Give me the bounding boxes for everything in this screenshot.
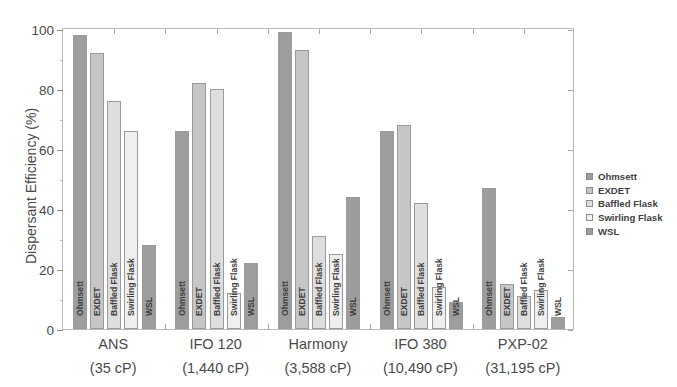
y-tick-mark (57, 330, 63, 331)
legend-label: Baffled Flask (598, 198, 658, 209)
chart-legend: OhmsettEXDETBaffled FlaskSwirling FlaskW… (586, 170, 674, 238)
bar[interactable]: WSL (142, 245, 156, 329)
bar-caption: Swirling Flask (537, 259, 546, 317)
x-group-viscosity: (1,440 cP) (164, 360, 266, 376)
y-tick-label: 80 (39, 83, 54, 98)
bar[interactable]: EXDET (397, 125, 411, 329)
bar-caption: Baffled Flask (417, 263, 426, 317)
legend-label: WSL (598, 226, 619, 237)
legend-swatch (586, 228, 593, 235)
y-tick-label: 60 (39, 143, 54, 158)
bar-caption: EXDET (400, 288, 409, 317)
bar-caption: Ohmsett (76, 282, 85, 317)
bar[interactable]: WSL (551, 317, 565, 329)
bar-caption: Swirling Flask (229, 259, 238, 317)
bar[interactable]: Swirling Flask (227, 293, 241, 329)
x-group-name: ANS (62, 336, 164, 352)
x-group-label: ANS(35 cP) (62, 336, 164, 376)
bar-caption: Ohmsett (485, 282, 494, 317)
x-group-viscosity: (35 cP) (62, 360, 164, 376)
bar-caption: Ohmsett (383, 282, 392, 317)
y-tick-label: 0 (46, 323, 54, 338)
bar-caption: Ohmsett (178, 282, 187, 317)
y-tick-label: 40 (39, 203, 54, 218)
x-group-name: Harmony (267, 336, 369, 352)
bar[interactable]: Baffled Flask (517, 296, 531, 329)
x-group-viscosity: (10,490 cP) (369, 360, 471, 376)
legend-item[interactable]: Baffled Flask (586, 197, 674, 211)
bar[interactable]: EXDET (192, 83, 206, 329)
bar-caption: WSL (554, 297, 563, 316)
x-group-label: IFO 380(10,490 cP) (369, 336, 471, 376)
bar[interactable]: WSL (449, 302, 463, 329)
legend-swatch (586, 200, 593, 207)
plot-area: 020406080100 OhmsettEXDETBaffled FlaskSw… (62, 28, 574, 330)
legend-item[interactable]: Swirling Flask (586, 211, 674, 225)
bar[interactable]: Baffled Flask (210, 89, 224, 329)
legend-swatch (586, 173, 593, 180)
bar[interactable]: EXDET (90, 53, 104, 329)
bar-group: OhmsettEXDETBaffled FlaskSwirling FlaskW… (473, 29, 575, 329)
bar-caption: Baffled Flask (212, 263, 221, 317)
legend-label: Ohmsett (598, 171, 637, 182)
bar[interactable]: Baffled Flask (312, 236, 326, 329)
bar[interactable]: Ohmsett (278, 32, 292, 329)
x-group-label: IFO 120(1,440 cP) (164, 336, 266, 376)
bar-caption: Baffled Flask (110, 263, 119, 317)
bar[interactable]: Swirling Flask (432, 287, 446, 329)
bar[interactable]: WSL (244, 263, 258, 329)
x-group-label: Harmony(3,588 cP) (267, 336, 369, 376)
y-axis-title: Dispersant Efficiency (%) (23, 31, 39, 341)
legend-item[interactable]: WSL (586, 224, 674, 238)
legend-swatch (586, 214, 593, 221)
bar-caption: EXDET (502, 288, 511, 317)
x-group-viscosity: (3,588 cP) (267, 360, 369, 376)
y-tick-mark-right (568, 330, 573, 331)
bar[interactable]: Swirling Flask (124, 131, 138, 329)
bar-caption: WSL (349, 297, 358, 316)
bar-caption: EXDET (93, 288, 102, 317)
bar[interactable]: Swirling Flask (534, 290, 548, 329)
bar[interactable]: Ohmsett (73, 35, 87, 329)
bar-caption: Baffled Flask (315, 263, 324, 317)
legend-item[interactable]: EXDET (586, 184, 674, 198)
bar-group: OhmsettEXDETBaffled FlaskSwirling FlaskW… (63, 29, 165, 329)
bar[interactable]: WSL (346, 197, 360, 329)
bar[interactable]: Baffled Flask (414, 203, 428, 329)
bar[interactable]: Swirling Flask (329, 254, 343, 329)
bar-group: OhmsettEXDETBaffled FlaskSwirling FlaskW… (165, 29, 267, 329)
bar-group: OhmsettEXDETBaffled FlaskSwirling FlaskW… (268, 29, 370, 329)
legend-label: Swirling Flask (598, 212, 663, 223)
chart-figure: Dispersant Efficiency (%) 020406080100 O… (0, 0, 677, 387)
bar-caption: EXDET (195, 288, 204, 317)
legend-swatch (586, 187, 593, 194)
bar-caption: Swirling Flask (434, 259, 443, 317)
bar-caption: Baffled Flask (519, 263, 528, 317)
bar[interactable]: Ohmsett (175, 131, 189, 329)
bar[interactable]: EXDET (295, 50, 309, 329)
x-group-name: IFO 380 (369, 336, 471, 352)
bar[interactable]: Ohmsett (482, 188, 496, 329)
x-group-viscosity: (31,195 cP) (472, 360, 574, 376)
bar-caption: WSL (451, 297, 460, 316)
bar-caption: EXDET (298, 288, 307, 317)
bar-caption: Swirling Flask (332, 259, 341, 317)
legend-label: EXDET (598, 185, 630, 196)
x-group-label: PXP-02(31,195 cP) (472, 336, 574, 376)
bar-caption: WSL (247, 297, 256, 316)
bar-group: OhmsettEXDETBaffled FlaskSwirling FlaskW… (370, 29, 472, 329)
bar-caption: WSL (144, 297, 153, 316)
x-group-name: IFO 120 (164, 336, 266, 352)
bars-layer: OhmsettEXDETBaffled FlaskSwirling FlaskW… (63, 29, 573, 329)
bar-caption: Ohmsett (280, 282, 289, 317)
bar-caption: Swirling Flask (127, 259, 136, 317)
y-tick-label: 20 (39, 263, 54, 278)
bar[interactable]: Ohmsett (380, 131, 394, 329)
x-group-name: PXP-02 (472, 336, 574, 352)
y-tick-label: 100 (31, 23, 54, 38)
bar[interactable]: EXDET (500, 284, 514, 329)
legend-item[interactable]: Ohmsett (586, 170, 674, 184)
bar[interactable]: Baffled Flask (107, 101, 121, 329)
